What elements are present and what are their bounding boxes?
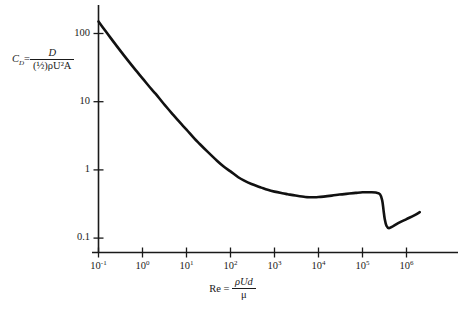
- y-fraction-numerator: D: [30, 47, 74, 60]
- x-tick-mantissa: 10: [136, 260, 147, 271]
- x-tick-mantissa: 10: [180, 260, 191, 271]
- x-tick-exponent: 5: [366, 258, 370, 266]
- drag-coefficient-curve: [99, 21, 420, 228]
- x-tick-exponent: 6: [410, 258, 414, 266]
- x-axis-title-fraction: ρUd μ: [232, 276, 256, 301]
- data-series-group: [99, 21, 420, 228]
- x-symbol-re: Re: [209, 283, 221, 294]
- x-tick-mantissa: 10: [356, 260, 367, 271]
- x-tick-label: 104: [297, 260, 341, 271]
- y-axis-title: CD= D (½)ρU²A: [12, 47, 74, 72]
- x-tick-label: 105: [341, 260, 385, 271]
- x-axis-title: Re = ρUd μ: [0, 276, 465, 301]
- x-tick-mantissa: 10: [400, 260, 411, 271]
- y-tick-label: 1: [40, 163, 90, 174]
- x-fraction-numerator: ρUd: [232, 276, 256, 289]
- drag-coefficient-figure: 1001010.1 10-1100101102103104105106 CD= …: [0, 0, 465, 310]
- y-axis-title-fraction: D (½)ρU²A: [30, 47, 74, 72]
- x-tick-exponent: 2: [234, 258, 238, 266]
- y-tick-label: 10: [40, 95, 90, 106]
- x-tick-exponent: 0: [146, 258, 150, 266]
- axes-group: [92, 5, 458, 253]
- x-tick-label: 102: [209, 260, 253, 271]
- x-tick-mantissa: 10: [312, 260, 323, 271]
- y-axis-title-symbol: CD=: [12, 53, 30, 67]
- y-fraction-denominator: (½)ρU²A: [30, 60, 74, 72]
- x-axis-title-symbol: Re =: [209, 283, 232, 294]
- x-tick-mantissa: 10: [90, 260, 101, 271]
- x-tick-exponent: -1: [101, 258, 107, 266]
- x-tick-exponent: 1: [190, 258, 194, 266]
- figure-caption: [0, 300, 465, 310]
- x-title-equals: =: [223, 283, 229, 294]
- x-tick-label: 100: [121, 260, 165, 271]
- x-tick-label: 106: [385, 260, 429, 271]
- x-tick-label: 10-1: [77, 260, 121, 271]
- x-tick-label: 101: [165, 260, 209, 271]
- x-tick-exponent: 4: [322, 258, 326, 266]
- x-tick-exponent: 3: [278, 258, 282, 266]
- y-symbol-c: C: [12, 53, 19, 64]
- y-tick-label: 100: [40, 27, 90, 38]
- x-tick-label: 103: [253, 260, 297, 271]
- x-tick-mantissa: 10: [224, 260, 235, 271]
- y-tick-label: 0.1: [40, 231, 90, 242]
- x-tick-mantissa: 10: [268, 260, 279, 271]
